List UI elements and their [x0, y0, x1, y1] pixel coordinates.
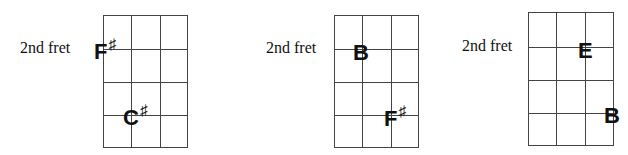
- note-marker: B: [353, 39, 370, 64]
- fret-position-label: 2nd fret: [20, 39, 70, 57]
- note-marker: B: [604, 102, 621, 127]
- fret-line: [529, 80, 613, 81]
- note-marker: F♯: [94, 38, 116, 63]
- note-name: F: [94, 39, 107, 64]
- note-name: F: [384, 106, 397, 131]
- note-marker: C♯: [123, 104, 147, 129]
- fret-line: [529, 113, 613, 114]
- fret-position-label: 2nd fret: [266, 39, 316, 57]
- fretboard-diagrams: 2nd fret F♯ C♯ 2nd fret B F♯ 2nd fret: [0, 0, 628, 155]
- string-line: [556, 13, 557, 145]
- fret-line: [335, 49, 418, 50]
- fret-grid: [334, 15, 419, 148]
- fret-line: [335, 82, 418, 83]
- fret-line: [529, 47, 613, 48]
- sharp-icon: ♯: [140, 101, 148, 118]
- note-name: E: [578, 38, 593, 63]
- sharp-icon: ♯: [108, 35, 116, 52]
- note-name: C: [123, 105, 139, 130]
- fret-position-label: 2nd fret: [462, 37, 512, 55]
- string-line: [585, 13, 586, 145]
- sharp-icon: ♯: [398, 102, 406, 119]
- note-marker: F♯: [384, 105, 406, 130]
- note-marker: E: [578, 37, 594, 62]
- fret-line: [104, 49, 187, 50]
- note-name: B: [604, 103, 620, 128]
- note-name: B: [353, 40, 369, 65]
- fret-grid: [528, 12, 614, 146]
- fret-line: [104, 82, 187, 83]
